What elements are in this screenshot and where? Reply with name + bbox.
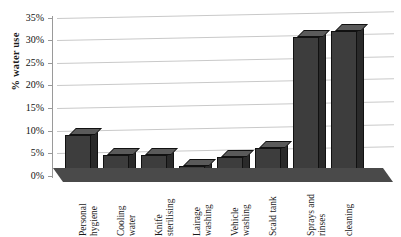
y-axis-tick-label: 5% <box>0 148 44 158</box>
bar-chart: % water use 35%30%25%20%15%10%5%0% Perso… <box>0 0 401 237</box>
bar-side-face <box>357 24 364 180</box>
bar-side-face <box>319 30 326 180</box>
x-axis-label-line1: cleaning <box>344 182 355 236</box>
chart-floor <box>53 168 393 182</box>
x-axis-label-line1: Lairage <box>192 182 203 236</box>
x-axis-label-line2: water <box>127 182 138 236</box>
x-axis-label-line1: Scald tank <box>268 182 279 236</box>
y-axis-tick-label: 35% <box>0 13 44 23</box>
bar-front-face <box>293 37 319 180</box>
bar <box>331 31 357 180</box>
x-axis-label-line1: Cooling <box>116 182 127 236</box>
x-axis-label-line2: hygiene <box>89 182 100 236</box>
x-axis-label-line1: Vehicle <box>230 182 241 236</box>
y-axis-tick-label: 10% <box>0 126 44 136</box>
plot-area <box>53 14 393 180</box>
bar <box>293 37 319 180</box>
x-axis-label-line1: Personal <box>78 182 89 236</box>
x-axis-label-line2: rinses <box>317 182 328 236</box>
x-axis-label-line1: Knife <box>154 182 165 236</box>
x-axis-labels: PersonalhygieneCoolingwaterKnifesterilis… <box>53 182 401 237</box>
y-axis-tick-label: 15% <box>0 103 44 113</box>
x-axis-label-line2: washing <box>203 182 214 236</box>
x-axis-label-line2: sterilising <box>165 182 176 236</box>
gridline <box>57 11 394 19</box>
y-axis-tick-label: 30% <box>0 35 44 45</box>
x-axis-label-line1: Sprays and <box>306 182 317 236</box>
bar-front-face <box>331 31 357 180</box>
y-axis-tick-label: 0% <box>0 171 44 181</box>
y-axis-tick-label: 20% <box>0 80 44 90</box>
y-axis-tick-label: 25% <box>0 58 44 68</box>
x-axis-label-line2: washing <box>241 182 252 236</box>
